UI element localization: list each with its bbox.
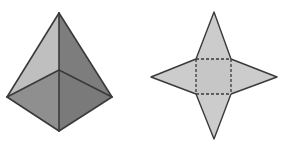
net-dashed-base-square [196,59,231,94]
geometry-figure-canvas [0,0,282,150]
